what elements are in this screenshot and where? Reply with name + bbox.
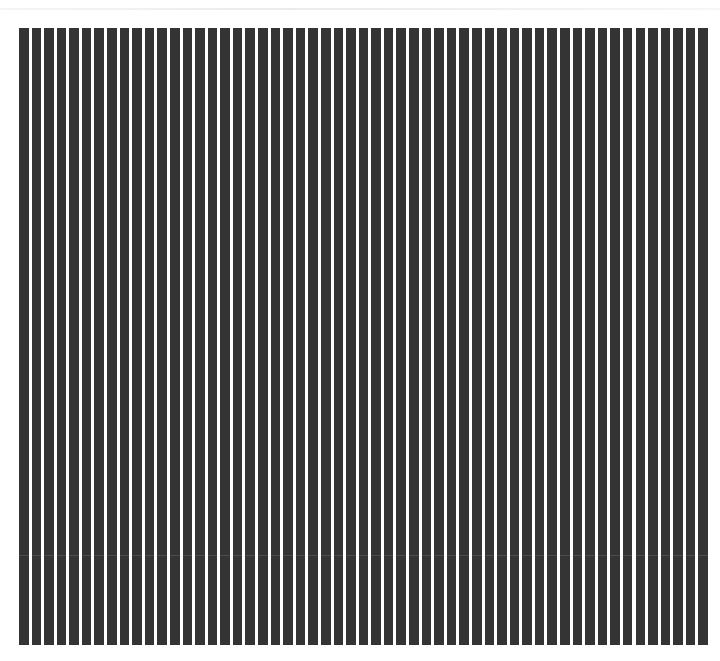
- grating-stripe: [183, 28, 193, 645]
- grating-stripe: [321, 28, 331, 645]
- grating-stripe: [636, 28, 646, 645]
- grating-stripe: [296, 28, 306, 645]
- grating-stripe: [334, 28, 344, 645]
- grating-stripe: [698, 28, 708, 645]
- scan-artifact-line: [0, 555, 720, 556]
- scan-artifact-line: [0, 8, 720, 10]
- grating-stripe: [623, 28, 633, 645]
- grating-stripe: [82, 28, 92, 645]
- grating-stripe: [94, 28, 104, 645]
- grating-stripe: [485, 28, 495, 645]
- grating-stripe: [233, 28, 243, 645]
- grating-stripe: [19, 28, 29, 645]
- grating-stripe: [648, 28, 658, 645]
- grating-stripe: [686, 28, 696, 645]
- grating-stripe: [598, 28, 608, 645]
- grating-stripe: [661, 28, 671, 645]
- grating-stripe: [673, 28, 683, 645]
- grating-stripe: [170, 28, 180, 645]
- grating-stripe: [459, 28, 469, 645]
- grating-stripe: [132, 28, 142, 645]
- grating-stripe: [434, 28, 444, 645]
- grating-stripe: [208, 28, 218, 645]
- grating-stripe: [346, 28, 356, 645]
- grating-stripe: [560, 28, 570, 645]
- grating-stripe: [44, 28, 54, 645]
- grating-stripe: [32, 28, 42, 645]
- grating-stripe: [283, 28, 293, 645]
- grating-stripe: [69, 28, 79, 645]
- grating-stripe: [107, 28, 117, 645]
- grating-stripe: [396, 28, 406, 645]
- grating-stripe: [258, 28, 268, 645]
- grating-stripe: [308, 28, 318, 645]
- grating-stripe: [535, 28, 545, 645]
- grating-stripe: [573, 28, 583, 645]
- grating-stripe: [157, 28, 167, 645]
- grating-stripe: [585, 28, 595, 645]
- grating-stripe: [510, 28, 520, 645]
- grating-stripe: [145, 28, 155, 645]
- grating-stripe: [610, 28, 620, 645]
- grating-stripe: [472, 28, 482, 645]
- grating-stripe: [547, 28, 557, 645]
- grating-stripe: [271, 28, 281, 645]
- grating-stripe: [522, 28, 532, 645]
- grating-stripe: [447, 28, 457, 645]
- grating-stripe: [384, 28, 394, 645]
- grating-stripe: [57, 28, 67, 645]
- grating-pattern: [19, 28, 708, 645]
- grating-stripe: [359, 28, 369, 645]
- grating-stripe: [422, 28, 432, 645]
- grating-stripe: [409, 28, 419, 645]
- grating-stripe: [195, 28, 205, 645]
- grating-stripe: [371, 28, 381, 645]
- grating-stripe: [497, 28, 507, 645]
- grating-stripe: [120, 28, 130, 645]
- grating-stripe: [245, 28, 255, 645]
- grating-stripe: [220, 28, 230, 645]
